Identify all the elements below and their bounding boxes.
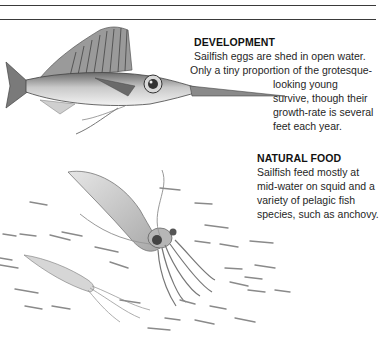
development-line-1: Sailfish eggs are shed in open water.	[194, 49, 372, 63]
development-line-2: Only a tiny proportion of the grotesque-	[190, 63, 372, 77]
natural-food-line-1: Sailfish feed mostly at	[257, 165, 379, 179]
natural-food-line-4: species, such as anchovy.	[257, 207, 379, 221]
development-line-5: growth-rate is several	[273, 105, 373, 119]
development-heading: DEVELOPMENT	[194, 36, 275, 48]
development-line-4: survive, though their	[273, 91, 373, 105]
development-text-bottom: looking young survive, though their grow…	[273, 77, 373, 133]
natural-food-line-2: mid-water on squid and a	[257, 179, 379, 193]
natural-food-heading: NATURAL FOOD	[257, 152, 341, 164]
squid-small-illustration	[24, 255, 150, 322]
natural-food-line-3: variety of pelagic fish	[257, 193, 379, 207]
natural-food-text: Sailfish feed mostly at mid-water on squ…	[257, 165, 379, 221]
development-line-6: feet each year.	[273, 119, 373, 133]
development-line-3: looking young	[273, 77, 373, 91]
development-text-top: Sailfish eggs are shed in open water. On…	[194, 49, 372, 77]
